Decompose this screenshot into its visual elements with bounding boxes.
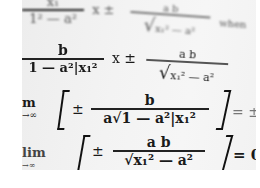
- radicand: x₁² — a²: [170, 69, 215, 84]
- radicand: x₁² — a²: [155, 23, 196, 37]
- limit-label: m: [22, 96, 37, 109]
- formula-line-3-limit: m →∞: [22, 96, 37, 122]
- formula-line-2-sqrt: a b √x₁² — a²: [145, 46, 229, 86]
- right-bracket: [216, 135, 234, 170]
- formula-line-4-limit: lim →∞: [22, 146, 46, 170]
- sqrt-fraction: a b √x₁² — a²: [145, 46, 229, 86]
- limit-subscript: →∞: [22, 109, 37, 122]
- trail-text: when: [219, 17, 247, 30]
- denominator: √x₁² — a²: [145, 59, 228, 86]
- right-bracket: [216, 90, 232, 130]
- operator-text: x ±: [112, 50, 136, 66]
- fraction: b 1 — a²|x₁²: [22, 42, 104, 75]
- operator-text: x ±: [92, 2, 114, 17]
- numerator: b: [91, 92, 209, 108]
- formula-line-1-sqrt: a b √x₁² — a² when: [129, 0, 248, 42]
- denominator: √x₁² — a²: [113, 150, 205, 168]
- formula-line-4-tail: = 0.: [233, 146, 256, 164]
- plus-minus: ±: [92, 143, 104, 159]
- limit-subscript: →∞: [22, 159, 46, 170]
- fraction: b a√1 — a²|x₁²: [91, 92, 209, 126]
- sqrt-fraction: a b √x₁² — a²: [129, 0, 211, 39]
- fraction: a b √x₁² — a²: [113, 134, 205, 168]
- formula-line-3-body: ± b a√1 — a²|x₁²: [72, 92, 209, 126]
- numerator: a b: [113, 134, 205, 150]
- formula-photo: x₁ 1² — a² x ± a b √x₁² — a² when b 1 — …: [22, 0, 256, 170]
- plus-minus: ±: [72, 101, 84, 117]
- fraction: x₁ 1² — a²: [22, 0, 84, 26]
- formula-line-4-body: ± a b √x₁² — a²: [92, 134, 205, 168]
- numerator: b: [22, 42, 104, 58]
- denominator: a√1 — a²|x₁²: [91, 108, 209, 126]
- denominator: 1 — a²|x₁²: [22, 58, 104, 75]
- denominator: 1² — a²: [22, 9, 84, 26]
- tail-text: = ±: [232, 104, 256, 120]
- formula-line-1: x₁ 1² — a² x ±: [22, 0, 115, 26]
- limit-label: lim: [22, 146, 46, 159]
- tail-text: = 0.: [233, 146, 256, 164]
- formula-line-2: b 1 — a²|x₁² x ±: [22, 42, 136, 75]
- left-bracket: [57, 90, 70, 130]
- denominator: √x₁² — a²: [129, 11, 210, 40]
- formula-line-3-tail: = ±: [232, 104, 256, 120]
- left-bracket: [76, 135, 90, 170]
- numerator: x₁: [22, 0, 84, 9]
